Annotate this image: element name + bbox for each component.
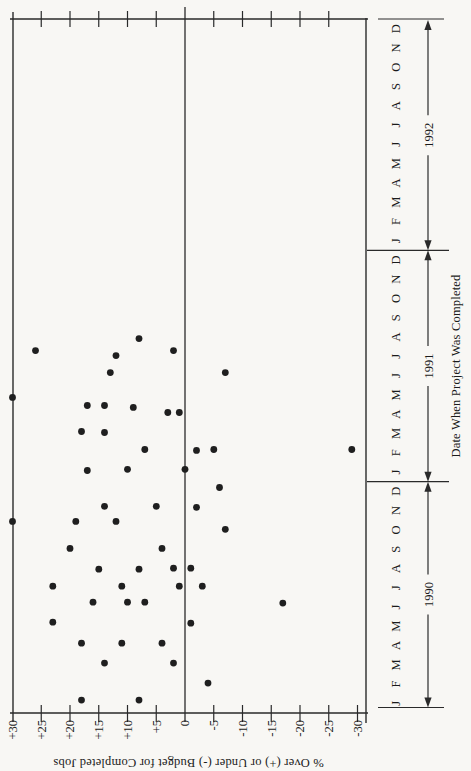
data-point [164,409,171,416]
value-tick-labels: +30+25+20+15+10+50-5-10-15-20-25-30 [6,720,365,740]
data-point [9,394,16,401]
data-point [205,680,212,687]
data-point [95,566,102,573]
svg-text:O: O [389,63,403,72]
svg-text:-15: -15 [265,720,279,737]
svg-text:N: N [389,506,403,515]
data-point [90,599,97,606]
data-point [176,583,183,590]
data-point [101,402,108,409]
data-point [113,518,120,525]
svg-text:+5: +5 [150,720,164,733]
data-point [84,467,91,474]
svg-text:F: F [389,449,403,456]
svg-text:J: J [389,238,403,243]
svg-text:A: A [389,101,403,110]
svg-text:J: J [389,373,403,378]
svg-text:F: F [389,218,403,225]
svg-text:N: N [389,275,403,284]
data-point [222,526,229,533]
data-point [136,335,143,342]
data-point [159,545,166,552]
svg-text:A: A [389,178,403,187]
svg-text:1992: 1992 [422,123,436,148]
svg-text:J: J [389,585,403,590]
svg-text:M: M [389,389,403,400]
data-point [199,583,206,590]
svg-text:J: J [389,604,403,609]
data-point [101,660,108,667]
svg-text:J: J [389,142,403,147]
data-point [78,640,85,647]
data-point [141,446,148,453]
data-point [193,447,200,454]
data-point [170,347,177,354]
svg-text:D: D [389,255,403,264]
svg-text:+20: +20 [63,720,77,740]
svg-text:S: S [389,546,403,553]
data-point [170,565,177,572]
svg-text:J: J [389,122,403,127]
svg-text:A: A [389,410,403,419]
data-point [130,404,137,411]
data-point [279,600,286,607]
data-point [193,504,200,511]
data-point [187,620,194,627]
svg-text:+25: +25 [35,720,49,740]
data-point [78,697,85,704]
data-point [187,565,194,572]
data-point [170,660,177,667]
svg-text:O: O [389,525,403,534]
scatter-chart-canvas: +30+25+20+15+10+50-5-10-15-20-25-30JFMAM… [0,0,471,771]
svg-text:A: A [389,333,403,342]
data-point [118,640,125,647]
svg-text:M: M [389,621,403,632]
data-point [101,503,108,510]
svg-text:O: O [389,294,403,303]
value-axis-title: % Over (+) or Under (-) Budget for Compl… [19,755,359,770]
scatter-chart-page: +30+25+20+15+10+50-5-10-15-20-25-30JFMAM… [0,0,471,771]
data-point [124,599,131,606]
svg-text:J: J [389,701,403,706]
data-point [348,446,355,453]
date-axis-title: Date When Project Was Completed [448,216,464,516]
svg-text:S: S [389,83,403,90]
svg-text:-25: -25 [322,720,336,737]
svg-text:A: A [389,641,403,650]
svg-text:M: M [389,197,403,208]
data-point [9,518,16,525]
data-point [84,402,91,409]
data-point [176,409,183,416]
data-points [9,335,355,703]
svg-text:N: N [389,43,403,52]
data-point [136,697,143,704]
data-point [67,545,74,552]
svg-text:1990: 1990 [422,582,436,607]
svg-text:+15: +15 [92,720,106,740]
data-point [124,466,131,473]
svg-text:1991: 1991 [422,354,436,379]
svg-text:+10: +10 [121,720,135,740]
value-axis-ticks [41,11,357,722]
svg-text:+30: +30 [6,720,20,740]
svg-text:-5: -5 [207,720,221,730]
svg-text:A: A [389,564,403,573]
data-point [210,446,217,453]
svg-text:D: D [389,24,403,33]
data-point [101,429,108,436]
data-point [49,619,56,626]
data-point [222,369,229,376]
svg-text:0: 0 [178,720,192,726]
data-point [153,503,160,510]
data-point [32,347,39,354]
year-brackets: 199019911992 [422,20,436,708]
data-point [49,583,56,590]
plot-box [10,12,368,723]
svg-text:M: M [389,428,403,439]
data-point [107,369,114,376]
month-letters: JFMAMJJASONDJFMAMJJASONDJFMAMJJASOND [389,24,403,706]
svg-text:S: S [389,314,403,321]
svg-text:M: M [389,659,403,670]
data-point [182,466,189,473]
data-point [113,352,120,359]
